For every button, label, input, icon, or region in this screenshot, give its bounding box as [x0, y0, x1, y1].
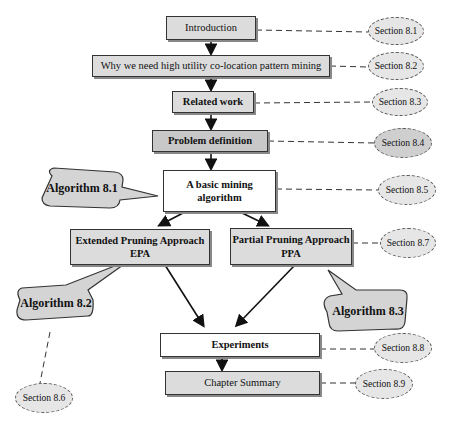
- node-label: Chapter Summary: [204, 376, 281, 389]
- node-related-work: Related work: [172, 91, 254, 113]
- node-label: Problem definition: [168, 134, 252, 147]
- section-8-6-ellipse: Section 8.6: [15, 383, 73, 413]
- section-label: Section 8.7: [387, 238, 430, 248]
- node-label: Experiments: [211, 338, 268, 351]
- callout-algorithm-8-2: Algorithm 8.2: [18, 288, 94, 318]
- node-problem-definition: Problem definition: [152, 130, 268, 152]
- callout-label: Algorithm 8.2: [20, 296, 91, 311]
- node-why-high-utility: Why we need high utility co-location pat…: [92, 55, 330, 77]
- section-8-1-ellipse: Section 8.1: [368, 17, 424, 45]
- section-label: Section 8.5: [386, 185, 429, 195]
- section-8-9-ellipse: Section 8.9: [355, 369, 413, 399]
- section-label: Section 8.2: [375, 61, 418, 71]
- section-8-3-ellipse: Section 8.3: [372, 88, 428, 116]
- node-introduction: Introduction: [166, 16, 256, 40]
- section-8-7-ellipse: Section 8.7: [380, 228, 436, 258]
- callout-algorithm-8-1: Algorithm 8.1: [42, 170, 122, 206]
- node-ppa: Partial Pruning Approach PPA: [230, 228, 352, 265]
- node-experiments: Experiments: [160, 333, 320, 357]
- section-label: Section 8.3: [379, 97, 422, 107]
- callout-algorithm-8-3: Algorithm 8.3: [330, 294, 406, 328]
- node-label: A basic mining: [186, 178, 253, 191]
- node-label: Introduction: [185, 21, 237, 34]
- node-label: Why we need high utility co-location pat…: [101, 59, 322, 72]
- section-8-4-ellipse: Section 8.4: [374, 128, 432, 158]
- node-label: algorithm: [197, 191, 241, 204]
- node-label: Related work: [183, 95, 243, 108]
- node-basic-mining-algorithm: A basic mining algorithm: [163, 170, 276, 212]
- node-label: Extended Pruning Approach: [76, 234, 205, 247]
- node-label: EPA: [130, 247, 150, 260]
- section-label: Section 8.4: [382, 138, 425, 148]
- section-label: Section 8.1: [375, 26, 418, 36]
- callout-label: Algorithm 8.1: [46, 181, 117, 196]
- node-chapter-summary: Chapter Summary: [165, 371, 320, 395]
- node-epa: Extended Pruning Approach EPA: [70, 229, 210, 265]
- section-label: Section 8.6: [23, 393, 66, 403]
- section-8-5-ellipse: Section 8.5: [378, 175, 436, 205]
- section-8-2-ellipse: Section 8.2: [368, 52, 424, 80]
- node-label: Partial Pruning Approach: [232, 233, 349, 246]
- callout-label: Algorithm 8.3: [332, 304, 403, 319]
- node-label: PPA: [281, 247, 301, 260]
- section-8-8-ellipse: Section 8.8: [374, 333, 432, 363]
- section-label: Section 8.8: [382, 343, 425, 353]
- section-label: Section 8.9: [363, 379, 406, 389]
